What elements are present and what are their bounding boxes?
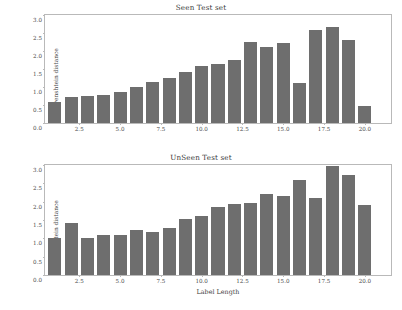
y-tick-mark — [43, 69, 45, 70]
x-tick-mark — [324, 123, 325, 125]
y-tick-label: 0.5 — [33, 259, 42, 265]
y-tick-label: 1.5 — [33, 223, 42, 229]
bar — [81, 96, 94, 123]
x-tick-mark — [79, 123, 80, 125]
y-tick-mark — [43, 165, 45, 166]
x-tick-mark — [120, 275, 121, 277]
chart-panel-unseen-test-set: UnSeen Test set Levenshtein distance 0.0… — [0, 150, 402, 310]
x-tick-mark — [202, 123, 203, 125]
bar — [309, 30, 322, 123]
y-tick-mark — [43, 202, 45, 203]
bar-series-unseen — [45, 165, 391, 275]
bar — [309, 198, 322, 275]
bar — [211, 207, 224, 275]
x-tick-mark — [283, 275, 284, 277]
x-tick-mark — [120, 123, 121, 125]
bar — [97, 235, 110, 275]
y-tick-mark — [43, 275, 45, 276]
bar — [97, 95, 110, 123]
bar — [195, 66, 208, 123]
y-tick-label: 2.0 — [33, 54, 42, 60]
bar — [179, 219, 192, 275]
x-tick-label: 17.5 — [318, 279, 330, 285]
x-tick-label: 5.0 — [116, 279, 125, 285]
y-tick-label: 0.0 — [33, 126, 42, 132]
chart-panel-seen-test-set: Seen Test set Levenshtein distance 0.00.… — [0, 0, 402, 150]
bar — [260, 47, 273, 123]
bar — [342, 175, 355, 275]
x-tick-label: 7.5 — [156, 127, 165, 133]
x-tick-mark — [202, 275, 203, 277]
y-tick-label: 3.0 — [33, 168, 42, 174]
bar — [81, 238, 94, 275]
x-tick-mark — [161, 275, 162, 277]
y-tick-mark — [43, 87, 45, 88]
y-tick-label: 2.5 — [33, 36, 42, 42]
bar — [228, 204, 241, 275]
bar — [130, 230, 143, 275]
bar — [358, 106, 371, 123]
y-tick-mark — [43, 183, 45, 184]
x-tick-mark — [242, 123, 243, 125]
bar — [277, 196, 290, 275]
x-tick-mark — [161, 123, 162, 125]
bar — [211, 64, 224, 123]
bar — [195, 216, 208, 275]
bar — [114, 92, 127, 123]
bar — [342, 40, 355, 123]
y-tick-mark — [43, 105, 45, 106]
bar — [277, 43, 290, 123]
bar — [48, 238, 61, 275]
bar — [163, 228, 176, 275]
plot-area-unseen: Levenshtein distance 0.00.51.01.52.02.53… — [44, 164, 392, 276]
bar — [179, 72, 192, 123]
bar — [244, 203, 257, 275]
bar — [244, 42, 257, 123]
figure-levenshtein-by-label-length: Seen Test set Levenshtein distance 0.00.… — [0, 0, 402, 310]
y-tick-mark — [43, 51, 45, 52]
bar-series-seen — [45, 15, 391, 123]
bar — [146, 82, 159, 123]
y-tick-label: 2.5 — [33, 186, 42, 192]
bar — [163, 78, 176, 123]
y-tick-mark — [43, 123, 45, 124]
chart-title-seen: Seen Test set — [0, 3, 402, 12]
y-tick-label: 1.5 — [33, 72, 42, 78]
x-tick-label: 20.0 — [359, 279, 371, 285]
x-tick-label: 15.0 — [277, 127, 289, 133]
bar — [48, 102, 61, 123]
y-tick-mark — [43, 220, 45, 221]
bar — [130, 87, 143, 123]
bar — [260, 194, 273, 275]
bar — [293, 180, 306, 275]
x-tick-mark — [365, 123, 366, 125]
y-tick-mark — [43, 15, 45, 16]
plot-area-seen: Levenshtein distance 0.00.51.01.52.02.53… — [44, 14, 392, 124]
x-tick-label: 12.5 — [236, 279, 248, 285]
y-tick-label: 0.5 — [33, 108, 42, 114]
bar — [114, 235, 127, 275]
y-tick-mark — [43, 257, 45, 258]
x-tick-label: 17.5 — [318, 127, 330, 133]
y-tick-label: 2.0 — [33, 204, 42, 210]
y-tick-label: 1.0 — [33, 241, 42, 247]
bar — [65, 97, 78, 123]
x-tick-mark — [79, 275, 80, 277]
bar — [293, 83, 306, 123]
y-tick-label: 1.0 — [33, 90, 42, 96]
bar — [146, 232, 159, 275]
x-tick-label: 2.5 — [75, 127, 84, 133]
x-tick-label: 15.0 — [277, 279, 289, 285]
x-tick-label: 20.0 — [359, 127, 371, 133]
bar — [326, 27, 339, 123]
x-tick-label: 7.5 — [156, 279, 165, 285]
y-tick-mark — [43, 33, 45, 34]
x-tick-label: 10.0 — [195, 127, 207, 133]
x-tick-label: 2.5 — [75, 279, 84, 285]
chart-title-unseen: UnSeen Test set — [0, 153, 402, 162]
x-tick-mark — [242, 275, 243, 277]
x-tick-label: 12.5 — [236, 127, 248, 133]
x-tick-label: 10.0 — [195, 279, 207, 285]
bar — [326, 166, 339, 275]
x-tick-mark — [283, 123, 284, 125]
